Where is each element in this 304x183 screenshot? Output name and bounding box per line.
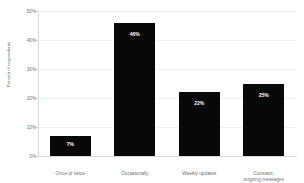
gridline — [38, 11, 296, 12]
x-axis-tick-label: Once or twice — [33, 171, 107, 177]
y-axis-tick-label: 0% — [6, 154, 36, 159]
x-axis-tick-label: Constant,ongoing messages — [227, 171, 301, 183]
y-axis-tick-label: 20% — [6, 96, 36, 101]
x-axis-tick-label-line: Once or twice — [33, 171, 107, 177]
x-axis-tick-label-line: ongoing messages — [227, 177, 301, 183]
bar-value-label: 25% — [243, 92, 284, 98]
bar[interactable]: 25% — [243, 84, 284, 157]
y-axis-tick-label: 10% — [6, 125, 36, 130]
bar[interactable]: 7% — [50, 136, 91, 156]
chart-title — [6, 0, 298, 2]
plot-area: 7%Once or twice46%Occasionally22%Weekly … — [38, 11, 296, 156]
x-axis-line — [38, 156, 297, 157]
x-axis-tick-label: Occasionally — [98, 171, 172, 177]
bar[interactable]: 46% — [114, 23, 155, 156]
x-axis-tick-label: Weekly updates — [162, 171, 236, 177]
y-axis-tick-label: 40% — [6, 38, 36, 43]
bar-value-label: 46% — [114, 31, 155, 37]
bar-value-label: 22% — [179, 100, 220, 106]
gridline — [38, 40, 296, 41]
y-axis: Percent of respondents 0%10%20%30%40%50% — [0, 0, 36, 183]
gridline — [38, 69, 296, 70]
x-axis-tick-label-line: Weekly updates — [162, 171, 236, 177]
y-axis-tick-label: 30% — [6, 67, 36, 72]
bar[interactable]: 22% — [179, 92, 220, 156]
bar-value-label: 7% — [50, 141, 91, 147]
x-axis-tick-label-line: Occasionally — [98, 171, 172, 177]
y-axis-tick-label: 50% — [6, 9, 36, 14]
bar-chart: Percent of respondents 0%10%20%30%40%50%… — [0, 0, 304, 183]
